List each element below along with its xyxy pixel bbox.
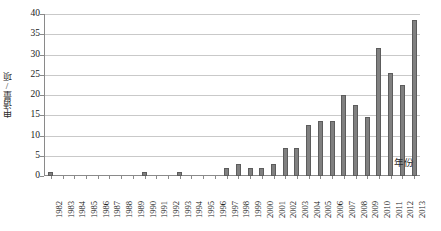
y-tick-label: 10 [16,131,40,141]
x-tick-label: 2004 [313,180,322,218]
x-tick-mark [133,176,134,179]
bar [306,125,311,176]
x-tick-label: 1991 [160,180,169,218]
bar [388,73,393,176]
x-tick-mark [203,176,204,179]
y-tick-label: 15 [16,110,40,120]
y-tick-label: 20 [16,90,40,100]
x-tick-label: 2008 [360,180,369,218]
x-tick-label: 1986 [102,180,111,218]
x-tick-label: 2010 [383,180,392,218]
x-tick-mark [63,176,64,179]
x-tick-label: 1992 [172,180,181,218]
x-tick-mark [344,176,345,179]
x-tick-mark [297,176,298,179]
x-tick-mark [168,176,169,179]
bar [318,121,323,176]
bar-chart: 申请量/项 0510152025303540 19821983198419851… [0,0,441,231]
x-tick-label: 1983 [67,180,76,218]
x-tick-mark [356,176,357,179]
bar [330,121,335,176]
bar [283,148,288,176]
x-tick-label: 1998 [242,180,251,218]
y-tick-label: 40 [16,9,40,19]
x-tick-label: 1982 [55,180,64,218]
x-tick-label: 1990 [149,180,158,218]
x-tick-label: 1995 [207,180,216,218]
x-tick-label: 1988 [125,180,134,218]
x-axis-tick-labels: 1982198319841985198619871988198919901991… [45,180,420,225]
x-tick-label: 1997 [231,180,240,218]
x-tick-mark [121,176,122,179]
x-tick-label: 2000 [266,180,275,218]
x-tick-label: 1994 [195,180,204,218]
x-tick-mark [402,176,403,179]
bar [248,168,253,176]
x-tick-label: 1999 [254,180,263,218]
x-tick-mark [227,176,228,179]
bar [341,95,346,176]
bar [294,148,299,176]
bar [412,20,417,176]
x-tick-mark [180,176,181,179]
x-tick-label: 2001 [278,180,287,218]
x-tick-mark [379,176,380,179]
y-tick-label: 30 [16,50,40,60]
x-tick-mark [86,176,87,179]
x-tick-mark [414,176,415,179]
bar [271,164,276,176]
x-tick-mark [332,176,333,179]
x-tick-label: 2006 [336,180,345,218]
x-tick-label: 1987 [113,180,122,218]
x-tick-label: 2003 [301,180,310,218]
x-tick-label: 1985 [90,180,99,218]
y-tick-label: 35 [16,29,40,39]
bar [224,168,229,176]
y-tick-mark [40,176,44,177]
x-tick-label: 2013 [418,180,427,218]
x-tick-label: 2002 [289,180,298,218]
x-tick-mark [109,176,110,179]
x-tick-mark [262,176,263,179]
x-tick-mark [191,176,192,179]
x-tick-mark [274,176,275,179]
x-tick-label: 1984 [78,180,87,218]
x-axis-title: 年份 [394,158,414,168]
bar [236,164,241,176]
y-tick-label: 25 [16,70,40,80]
x-tick-mark [156,176,157,179]
bar-series [45,14,420,176]
x-tick-label: 2012 [406,180,415,218]
bar [376,48,381,176]
x-tick-mark [74,176,75,179]
x-tick-label: 1989 [137,180,146,218]
x-tick-mark [367,176,368,179]
x-tick-label: 1996 [219,180,228,218]
y-tick-label: 5 [16,151,40,161]
x-tick-mark [98,176,99,179]
x-tick-mark [285,176,286,179]
x-tick-label: 2005 [324,180,333,218]
x-tick-mark [391,176,392,179]
x-tick-mark [51,176,52,179]
x-tick-label: 1993 [184,180,193,218]
bar [259,168,264,176]
x-tick-mark [215,176,216,179]
x-tick-mark [250,176,251,179]
x-tick-mark [145,176,146,179]
x-tick-mark [309,176,310,179]
bar [353,105,358,176]
bar [365,117,370,176]
x-tick-label: 2009 [371,180,380,218]
x-tick-label: 2011 [395,180,404,218]
x-tick-label: 2007 [348,180,357,218]
x-tick-mark [320,176,321,179]
y-tick-label: 0 [16,171,40,181]
x-tick-mark [238,176,239,179]
